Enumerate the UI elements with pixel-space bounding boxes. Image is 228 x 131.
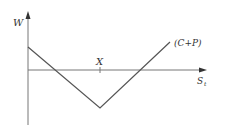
y-axis-label: W [13,17,24,28]
x-axis-label: S [197,76,203,86]
curve-label: (C+P) [174,38,202,48]
payoff-line [28,42,170,108]
payoff-diagram: W X (C+P) S t [0,0,228,131]
y-axis-arrow-icon [26,11,31,19]
x-axis-subscript: t [204,80,207,87]
strike-label: X [95,56,104,67]
x-axis-arrow-icon [199,68,207,73]
